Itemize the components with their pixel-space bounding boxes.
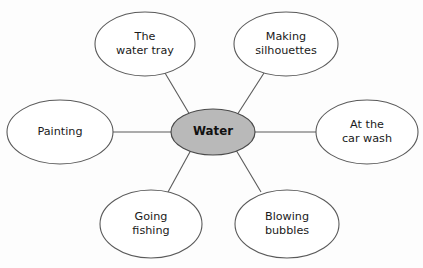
connector-line-going-fishing: [168, 150, 191, 192]
node-ellipse-blowing-bubbles[interactable]: [235, 190, 339, 258]
connector-line-water-tray: [165, 73, 190, 115]
center-ellipse-group: [171, 109, 255, 155]
connector-line-making-silhouettes: [237, 73, 264, 115]
mind-map-diagram: The water trayMaking silhouettesPainting…: [0, 0, 423, 268]
node-ellipse-painting[interactable]: [7, 100, 113, 164]
center-ellipse-water[interactable]: [171, 109, 255, 155]
diagram-canvas-svg: [0, 0, 423, 268]
node-ellipse-going-fishing[interactable]: [100, 190, 202, 258]
node-ellipse-at-the-car-wash[interactable]: [316, 100, 418, 164]
connector-line-blowing-bubbles: [236, 150, 261, 192]
node-ellipse-water-tray[interactable]: [95, 12, 195, 76]
node-ellipse-making-silhouettes[interactable]: [234, 12, 338, 76]
